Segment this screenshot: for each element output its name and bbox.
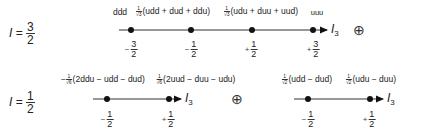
denominator: 2 bbox=[106, 120, 113, 129]
coefficient: 1√6 bbox=[66, 74, 72, 85]
sign: − bbox=[125, 45, 130, 54]
state-dot-ddd bbox=[128, 27, 134, 33]
coefficient: 1√6 bbox=[157, 74, 163, 85]
denominator: 2 bbox=[190, 50, 197, 59]
coefficient: 1√2 bbox=[346, 74, 352, 85]
isospin-label-3-2: I = 32 bbox=[9, 21, 35, 46]
coef-den: √3 bbox=[224, 12, 230, 17]
tick-a-plus-1-2: +12 bbox=[162, 110, 175, 129]
isospin-var: I bbox=[9, 95, 12, 109]
tick-plus-1-2: +12 bbox=[245, 40, 258, 59]
equals-sign: = bbox=[16, 26, 23, 40]
tick-minus-1-2: −12 bbox=[185, 40, 198, 59]
fraction: 12 bbox=[190, 40, 197, 59]
fraction: 32 bbox=[26, 21, 35, 46]
state-dot-a-plus bbox=[166, 96, 172, 102]
state-label-i3-plus-half: 1√3(udu + duu + uud) bbox=[224, 6, 298, 17]
fraction: 12 bbox=[307, 110, 314, 129]
coefficient: 1√2 bbox=[282, 74, 288, 85]
isospin-var: I bbox=[9, 26, 12, 40]
coefficient: 1√3 bbox=[136, 6, 142, 17]
sign: + bbox=[245, 45, 250, 54]
state-label-uuu: uuu bbox=[311, 9, 324, 17]
tick-b-minus-1-2: −12 bbox=[302, 110, 315, 129]
axis-sub: 3 bbox=[334, 29, 338, 38]
state-dot-b-plus bbox=[367, 96, 373, 102]
sign: − bbox=[185, 45, 190, 54]
state-text: (udd + dud + ddu) bbox=[142, 6, 210, 16]
fraction: 12 bbox=[106, 110, 113, 129]
axis-sub: 3 bbox=[390, 98, 394, 107]
sign: + bbox=[363, 115, 368, 124]
state-dot-uuu bbox=[310, 27, 316, 33]
fraction: 32 bbox=[312, 40, 319, 59]
coef-den: √2 bbox=[346, 80, 352, 85]
state-dot-uud bbox=[249, 27, 255, 33]
state-dot-b-minus bbox=[305, 96, 311, 102]
denominator: 2 bbox=[307, 120, 314, 129]
coef-den: √6 bbox=[157, 80, 163, 85]
fraction: 32 bbox=[130, 40, 137, 59]
fraction: 12 bbox=[26, 90, 35, 115]
state-label-b-plus: 1√2(udu − duu) bbox=[346, 74, 396, 85]
state-text: (udu + duu + uud) bbox=[230, 6, 298, 16]
axis-sub: 3 bbox=[188, 98, 192, 107]
state-text: (udd − dud) bbox=[288, 74, 332, 84]
denominator: 2 bbox=[250, 50, 257, 59]
state-text: uuu bbox=[311, 8, 324, 17]
state-dot-a-minus bbox=[104, 96, 110, 102]
sign: + bbox=[162, 115, 167, 124]
denominator: 2 bbox=[312, 50, 319, 59]
coef-den: √6 bbox=[66, 80, 72, 85]
coef-den: √3 bbox=[136, 12, 142, 17]
i3-axis-label: I3 bbox=[331, 23, 339, 38]
sign: − bbox=[101, 115, 106, 124]
state-text: (2ddu − udd − dud) bbox=[73, 74, 145, 84]
isospin-label-1-2: I = 12 bbox=[9, 90, 35, 115]
state-label-a-minus: −1√6(2ddu − udd − dud) bbox=[61, 74, 145, 85]
i3-axis-label-b: I3 bbox=[387, 92, 395, 107]
denominator: 2 bbox=[368, 120, 375, 129]
fraction: 12 bbox=[368, 110, 375, 129]
tick-a-minus-1-2: −12 bbox=[101, 110, 114, 129]
coef-den: √2 bbox=[282, 80, 288, 85]
direct-sum-symbol-2: ⊕ bbox=[231, 92, 243, 106]
state-dot-ddu bbox=[188, 27, 194, 33]
denominator: 2 bbox=[26, 34, 35, 46]
state-text: (udu − duu) bbox=[352, 74, 396, 84]
state-label-ddd: ddd bbox=[113, 8, 127, 17]
coefficient: 1√3 bbox=[224, 6, 230, 17]
tick-b-plus-1-2: +12 bbox=[363, 110, 376, 129]
denominator: 2 bbox=[130, 50, 137, 59]
tick-plus-3-2: +32 bbox=[307, 40, 320, 59]
tick-minus-3-2: −32 bbox=[125, 40, 138, 59]
state-text: (2uud − duu − udu) bbox=[163, 74, 235, 84]
fraction: 12 bbox=[250, 40, 257, 59]
denominator: 2 bbox=[26, 103, 35, 115]
state-text: ddd bbox=[113, 7, 127, 17]
i3-axis-label-a: I3 bbox=[185, 92, 193, 107]
axes-drawing bbox=[0, 0, 425, 132]
state-label-b-minus: 1√2(udd − dud) bbox=[282, 74, 332, 85]
state-label-a-plus: 1√6(2uud − duu − udu) bbox=[157, 74, 236, 85]
denominator: 2 bbox=[167, 120, 174, 129]
state-label-i3-minus-half: 1√3(udd + dud + ddu) bbox=[136, 6, 210, 17]
equals-sign: = bbox=[16, 95, 23, 109]
fraction: 12 bbox=[167, 110, 174, 129]
sign: + bbox=[307, 45, 312, 54]
sign: − bbox=[302, 115, 307, 124]
direct-sum-symbol: ⊕ bbox=[353, 23, 365, 37]
